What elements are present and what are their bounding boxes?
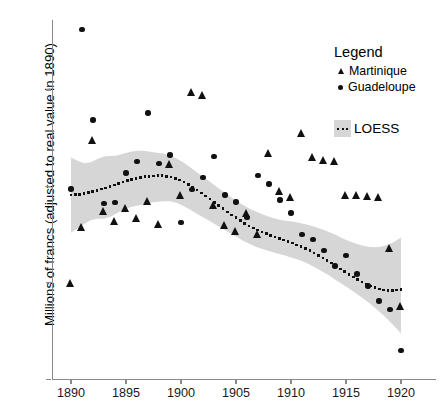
data-point-martinique bbox=[198, 91, 206, 99]
loess-line-dot bbox=[265, 232, 268, 235]
data-point-martinique bbox=[231, 227, 239, 235]
data-point-martinique bbox=[330, 157, 338, 165]
x-tick-label: 1920 bbox=[371, 386, 431, 400]
y-tick-mark bbox=[46, 186, 51, 187]
loess-line-dot bbox=[148, 175, 151, 178]
y-tick-mark bbox=[46, 89, 51, 90]
data-point-guadeloupe bbox=[387, 307, 392, 312]
data-point-guadeloupe bbox=[233, 199, 238, 204]
loess-line-dot bbox=[235, 216, 238, 219]
data-point-martinique bbox=[154, 220, 162, 228]
loess-line-dot bbox=[196, 189, 199, 192]
x-tick-label: 1895 bbox=[96, 386, 156, 400]
data-point-martinique bbox=[297, 129, 305, 137]
x-tick-mark bbox=[180, 379, 181, 384]
data-point-martinique bbox=[242, 209, 250, 217]
loess-line-dot bbox=[165, 175, 168, 178]
loess-line-dot bbox=[291, 242, 294, 245]
loess-line-dot bbox=[391, 289, 394, 292]
loess-line-dot bbox=[326, 259, 329, 262]
legend-item-martinique[interactable]: Martinique bbox=[334, 63, 416, 79]
data-point-guadeloupe bbox=[167, 152, 172, 157]
data-point-guadeloupe bbox=[277, 197, 282, 202]
loess-band-swatch-icon bbox=[334, 120, 351, 137]
loess-line-dot bbox=[217, 204, 220, 207]
loess-line-dot bbox=[356, 278, 359, 281]
loess-line-dot bbox=[70, 194, 73, 197]
data-point-martinique bbox=[341, 191, 349, 199]
loess-line-dot bbox=[387, 289, 390, 292]
loess-line-dot bbox=[78, 193, 81, 196]
legend-label-martinique: Martinique bbox=[349, 64, 407, 78]
data-point-martinique bbox=[253, 230, 261, 238]
loess-line-dot bbox=[178, 179, 181, 182]
x-tick-label: 1910 bbox=[261, 386, 321, 400]
loess-line-dot bbox=[174, 177, 177, 180]
loess-line-dot bbox=[144, 175, 147, 178]
loess-line-dot bbox=[274, 236, 277, 239]
loess-line-dot bbox=[204, 195, 207, 198]
loess-line-dot bbox=[157, 174, 160, 177]
legend: Legend Martinique Guadeloupe bbox=[334, 44, 416, 95]
x-tick-mark bbox=[290, 379, 291, 384]
loess-line-dot bbox=[170, 176, 173, 179]
loess-line-dot bbox=[374, 286, 377, 289]
loess-line-dot bbox=[287, 240, 290, 243]
loess-line-dot bbox=[295, 244, 298, 247]
data-point-martinique bbox=[308, 153, 316, 161]
circle-marker-icon bbox=[338, 85, 343, 90]
data-point-guadeloupe bbox=[145, 110, 150, 115]
loess-line-dot bbox=[243, 222, 246, 225]
data-point-martinique bbox=[66, 279, 74, 287]
data-point-guadeloupe bbox=[376, 298, 381, 303]
loess-line-dot bbox=[130, 178, 133, 181]
legend-item-loess[interactable]: LOESS bbox=[334, 120, 399, 137]
x-tick-label: 1915 bbox=[316, 386, 376, 400]
loess-line-dot bbox=[400, 288, 403, 291]
data-point-guadeloupe bbox=[101, 201, 106, 206]
loess-line-dot bbox=[113, 184, 116, 187]
loess-line-dot bbox=[222, 207, 225, 210]
data-point-guadeloupe bbox=[178, 220, 183, 225]
x-tick-mark bbox=[345, 379, 346, 384]
loess-line-dot bbox=[339, 268, 342, 271]
data-point-martinique bbox=[220, 221, 228, 229]
loess-line-dot bbox=[152, 175, 155, 178]
legend-item-guadeloupe[interactable]: Guadeloupe bbox=[334, 79, 416, 95]
loess-line-dot bbox=[109, 185, 112, 188]
chart-figure: Millions of francs (adjusted to real val… bbox=[0, 0, 448, 419]
x-tick-mark bbox=[400, 379, 401, 384]
loess-line-dot bbox=[91, 190, 94, 193]
data-point-guadeloupe bbox=[288, 210, 293, 215]
loess-line-dot bbox=[361, 281, 364, 284]
data-point-martinique bbox=[209, 201, 217, 209]
loess-line-dot bbox=[161, 174, 164, 177]
loess-line-dot bbox=[300, 245, 303, 248]
data-point-martinique bbox=[77, 223, 85, 231]
x-tick-mark bbox=[235, 379, 236, 384]
data-point-guadeloupe bbox=[299, 232, 304, 237]
loess-line-dot bbox=[104, 187, 107, 190]
data-point-martinique bbox=[165, 160, 173, 168]
data-point-martinique bbox=[385, 244, 393, 252]
loess-line-dot bbox=[313, 252, 316, 255]
loess-line-dot bbox=[278, 237, 281, 240]
loess-line-dot bbox=[100, 188, 103, 191]
x-tick-label: 1900 bbox=[151, 386, 211, 400]
data-point-guadeloupe bbox=[332, 263, 337, 268]
loess-line-dot bbox=[226, 211, 229, 214]
loess-line-dot bbox=[252, 227, 255, 230]
loess-line-dot bbox=[317, 254, 320, 257]
loess-line-dot bbox=[122, 181, 125, 184]
loess-line-dot bbox=[248, 225, 251, 228]
loess-line-dot bbox=[282, 239, 285, 242]
loess-line-dot bbox=[83, 192, 86, 195]
data-point-martinique bbox=[99, 207, 107, 215]
data-point-guadeloupe bbox=[211, 154, 216, 159]
loess-line-dot bbox=[187, 183, 190, 186]
x-tick-mark bbox=[70, 379, 71, 384]
data-point-guadeloupe bbox=[222, 192, 227, 197]
loess-line-dot bbox=[183, 181, 186, 184]
data-point-martinique bbox=[110, 217, 118, 225]
loess-line-dot bbox=[309, 249, 312, 252]
